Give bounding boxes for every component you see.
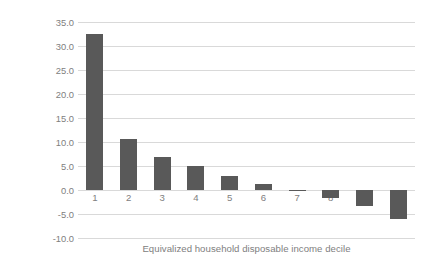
x-axis-tick-label: 5 — [227, 192, 232, 203]
y-axis-tick-label: 15.0 — [34, 113, 74, 124]
bar-decile-5 — [221, 176, 238, 190]
bar-decile-1 — [86, 34, 103, 190]
y-axis-tick-label: 25.0 — [34, 65, 74, 76]
y-axis-tick-label: 30.0 — [34, 41, 74, 52]
bar-decile-3 — [154, 157, 171, 190]
x-axis-tick-labels: 12345678910 — [78, 192, 415, 208]
bar-decile-4 — [187, 166, 204, 190]
x-axis-tick-label: 7 — [294, 192, 299, 203]
y-axis-tick-labels: 35.030.025.020.015.010.05.00.0-5.0-10.0 — [34, 0, 74, 267]
x-axis-tick-label: 1 — [92, 192, 97, 203]
x-axis-tick-label: 10 — [393, 192, 404, 203]
x-axis-tick-label: 4 — [193, 192, 198, 203]
y-axis-tick-label: -10.0 — [34, 233, 74, 244]
bar-decile-2 — [120, 139, 137, 190]
x-axis-tick-label: 8 — [328, 192, 333, 203]
y-axis-tick-label: 20.0 — [34, 89, 74, 100]
bar-chart: % increase in mean equivalized household… — [0, 0, 423, 267]
x-axis-title: Equivalized household disposable income … — [78, 243, 415, 254]
x-axis-tick-label: 3 — [160, 192, 165, 203]
y-axis-tick-label: 10.0 — [34, 137, 74, 148]
x-axis-tick-label: 6 — [261, 192, 266, 203]
y-axis-tick-label: 0.0 — [34, 185, 74, 196]
y-axis-tick-label: 5.0 — [34, 161, 74, 172]
x-axis-tick-label: 9 — [362, 192, 367, 203]
bar-decile-6 — [255, 184, 272, 190]
x-axis-tick-label: 2 — [126, 192, 131, 203]
gridline — [78, 238, 415, 239]
y-axis-tick-label: 35.0 — [34, 17, 74, 28]
y-axis-tick-label: -5.0 — [34, 209, 74, 220]
